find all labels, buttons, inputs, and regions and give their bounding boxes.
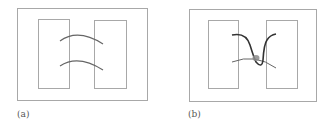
right-block-a [95, 21, 127, 89]
junction-blob-b [253, 55, 260, 61]
panel-b [190, 10, 317, 102]
panel-label-a: (a) [17, 110, 29, 119]
left-block-a [39, 20, 70, 89]
panel-label-b: (b) [188, 110, 201, 119]
figure-canvas [0, 0, 334, 127]
panel-a [18, 9, 148, 101]
lower-arc-a [60, 61, 103, 70]
left-block-b [209, 21, 239, 89]
upper-arc-a [60, 35, 103, 44]
outer-frame-a [18, 9, 148, 101]
right-block-b [267, 21, 298, 89]
